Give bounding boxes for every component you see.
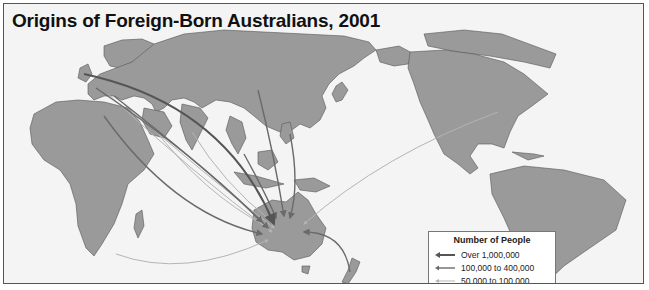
flow-southern-africa	[116, 240, 268, 264]
map-legend: Number of People Over 1,000,000 100,000 …	[428, 231, 556, 284]
flow-south-asia	[192, 132, 270, 220]
land-africa	[30, 100, 154, 256]
land-caribbean	[512, 152, 544, 160]
land-tasmania	[302, 266, 310, 274]
legend-item-over-1m: Over 1,000,000	[435, 248, 549, 261]
land-uk	[78, 64, 92, 82]
land-indochina	[226, 116, 246, 154]
land-madagascar	[134, 210, 144, 238]
legend-label: Over 1,000,000	[461, 250, 520, 260]
land-new-guinea	[294, 178, 330, 192]
map-title: Origins of Foreign-Born Australians, 200…	[12, 10, 380, 32]
land-japan	[332, 82, 348, 102]
legend-title: Number of People	[435, 235, 549, 245]
legend-label: 100,000 to 400,000	[461, 263, 534, 273]
land-india	[180, 104, 208, 150]
arrow-medium-icon	[435, 264, 455, 272]
map-frame: Origins of Foreign-Born Australians, 200…	[3, 3, 644, 284]
legend-label: 50,000 to 100,000	[461, 276, 530, 285]
land-new-zealand	[342, 258, 360, 284]
legend-item-100k-400k: 100,000 to 400,000	[435, 261, 549, 274]
arrow-light-icon	[435, 277, 455, 285]
legend-item-50k-100k: 50,000 to 100,000	[435, 274, 549, 284]
land-alaska	[376, 46, 414, 66]
arrow-dark-icon	[435, 251, 455, 259]
